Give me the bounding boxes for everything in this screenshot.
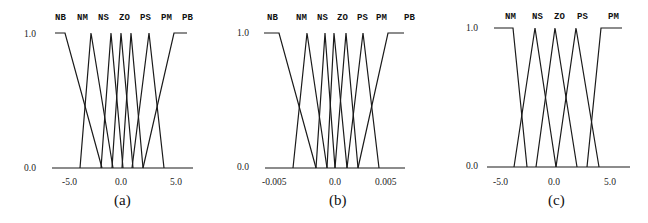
caption-c: (c): [548, 192, 565, 209]
xtick-0: 0.0: [115, 177, 127, 187]
label-ns: NS: [317, 13, 328, 23]
xtick-5: 5.0: [170, 177, 182, 187]
ytick-0: 0.0: [466, 161, 478, 171]
label-pb: PB: [182, 13, 193, 23]
label-pb: PB: [404, 13, 415, 23]
xtick-0: 0.0: [548, 177, 560, 187]
label-zo: ZO: [337, 13, 348, 23]
label-nb: NB: [55, 13, 66, 23]
ytick-1: 1.0: [24, 29, 36, 39]
mf-nm: [494, 28, 527, 167]
label-pm: PM: [608, 12, 619, 22]
xtick-5: 5.0: [604, 177, 616, 187]
caption-a: (a): [114, 192, 131, 209]
ytick-1: 1.0: [237, 28, 249, 38]
label-ps: PS: [357, 13, 368, 23]
mf-pm: [587, 28, 622, 167]
xtick-neg5: -5.0: [493, 177, 508, 187]
xtick-neg0005: -0.005: [262, 177, 287, 187]
mf-zo: [536, 28, 577, 167]
ytick-0: 0.0: [237, 162, 249, 172]
xtick-0: 0.0: [329, 177, 341, 187]
mf-nb: [55, 33, 102, 168]
mf-ps: [122, 33, 143, 168]
panel-b: NB NM NS ZO PS PM PB 1.0 0.0 -0.005 0.0 …: [237, 13, 415, 209]
label-ps: PS: [140, 13, 151, 23]
panel-c: NM NS ZO PS PM 1.0 0.0 -5.0 0.0 5.0 (c): [466, 12, 630, 209]
label-ps: PS: [577, 12, 588, 22]
label-nm: NM: [505, 12, 516, 22]
label-pm: PM: [376, 13, 387, 23]
label-zo: ZO: [119, 13, 130, 23]
xtick-0005: 0.005: [375, 177, 397, 187]
mf-pb: [143, 33, 187, 168]
panel-a: NB NM NS ZO PS PM PB 1.0 0.0 -5.0 0.0 5.…: [24, 13, 193, 209]
ytick-1: 1.0: [466, 23, 478, 33]
label-nm: NM: [296, 13, 307, 23]
label-nm: NM: [77, 13, 88, 23]
label-zo: ZO: [554, 12, 565, 22]
mf-nb: [264, 33, 316, 168]
ytick-0: 0.0: [24, 163, 36, 173]
mf-ps: [556, 28, 599, 167]
label-pm: PM: [161, 13, 172, 23]
membership-function-figure: NB NM NS ZO PS PM PB 1.0 0.0 -5.0 0.0 5.…: [0, 0, 648, 223]
label-nb: NB: [267, 13, 278, 23]
xtick-neg5: -5.0: [62, 177, 77, 187]
caption-b: (b): [329, 192, 347, 209]
label-ns: NS: [532, 12, 543, 22]
label-ns: NS: [98, 13, 109, 23]
mf-ns: [316, 33, 335, 168]
